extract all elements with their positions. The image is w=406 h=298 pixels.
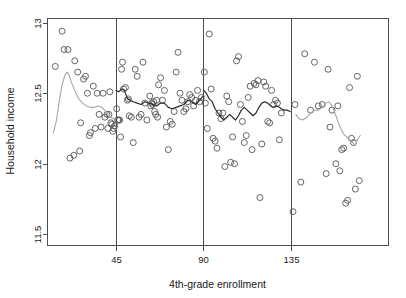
scatter-point	[120, 59, 126, 65]
smoother-curves-layer	[53, 72, 360, 145]
scatter-point	[327, 124, 333, 130]
scatter-point	[175, 49, 181, 55]
scatter-point	[214, 145, 220, 151]
scatter-point	[94, 90, 100, 96]
scatter-point	[156, 82, 162, 88]
scatter-point	[118, 134, 124, 140]
scatter-point	[195, 87, 201, 93]
scatter-point	[269, 87, 275, 93]
scatter-point	[140, 59, 146, 65]
scatter-point	[245, 94, 251, 100]
scatter-point	[201, 69, 207, 75]
scatter-point	[341, 145, 347, 151]
x-axis-title: 4th-grade enrollment	[169, 278, 266, 290]
scatter-point	[325, 66, 331, 72]
scatter-point	[72, 58, 78, 64]
scatter-point	[232, 161, 238, 167]
y-tick-label: 12.5	[32, 84, 43, 103]
smoother-curve	[296, 102, 360, 146]
scatter-point	[290, 209, 296, 215]
scatter-point	[75, 69, 81, 75]
smoother-curve	[53, 72, 115, 133]
y-tick-label: 13	[32, 18, 43, 29]
x-tick-label: 90	[198, 254, 209, 265]
scatter-point	[132, 66, 138, 72]
scatter-point	[339, 147, 345, 153]
scatter-point	[292, 102, 298, 108]
scatter-plot-figure: 459013511.51212.513 4th-grade enrollment…	[0, 0, 406, 298]
scatter-point	[230, 134, 236, 140]
scatter-point	[228, 159, 234, 165]
scatter-point	[278, 110, 284, 116]
scatter-point	[267, 120, 273, 126]
scatter-point	[239, 118, 245, 124]
scatter-point	[222, 164, 228, 170]
scatter-point	[302, 51, 308, 57]
scatter-point	[265, 118, 271, 124]
scatter-point	[134, 73, 140, 79]
scatter-point	[276, 137, 282, 143]
scatter-point	[177, 90, 183, 96]
scatter-point	[158, 75, 164, 81]
scatter-point	[128, 114, 134, 120]
vertical-reference-lines	[117, 19, 292, 246]
scatter-point	[243, 133, 249, 139]
panel-frame	[48, 19, 389, 246]
scatter-point	[78, 120, 84, 126]
scatter-point	[119, 66, 125, 72]
scatter-point	[308, 107, 314, 113]
scatter-point	[144, 117, 150, 123]
scatter-point	[226, 99, 232, 105]
scatter-point	[77, 148, 83, 154]
scatter-point	[259, 141, 265, 147]
scatter-point	[84, 90, 90, 96]
scatter-point	[337, 168, 343, 174]
scatter-point	[90, 83, 96, 89]
scatter-point	[333, 161, 339, 167]
scatter-point	[96, 111, 102, 117]
scatter-point	[173, 69, 179, 75]
scatter-point	[257, 195, 263, 201]
scatter-point	[237, 102, 243, 108]
scatter-point	[59, 28, 65, 34]
scatter-point	[163, 124, 169, 130]
axis-tick-labels: 459013511.51212.513	[32, 18, 300, 264]
scatter-point	[204, 125, 210, 131]
x-tick-label: 135	[284, 254, 300, 265]
scatter-point	[241, 140, 247, 146]
scatter-point	[352, 186, 358, 192]
scatter-point	[298, 179, 304, 185]
scatter-point	[98, 124, 104, 130]
scatter-point	[224, 93, 230, 99]
x-tick-label: 45	[111, 254, 122, 265]
scatter-point	[92, 125, 98, 131]
scatter-point	[206, 31, 212, 37]
scatter-point	[323, 171, 329, 177]
scatter-point	[179, 97, 185, 103]
scatter-point	[208, 86, 214, 92]
scatter-point	[147, 93, 153, 99]
scatter-point	[171, 109, 177, 115]
scatter-point	[347, 85, 353, 91]
scatter-point	[354, 73, 360, 79]
scatter-point	[52, 63, 58, 69]
scatter-point	[126, 113, 132, 119]
scatter-point	[220, 110, 226, 116]
scatter-point	[335, 103, 341, 109]
scatter-point	[107, 89, 113, 95]
y-axis-title: Household income	[4, 87, 16, 174]
scatter-point	[311, 59, 317, 65]
plot-canvas: 459013511.51212.513 4th-grade enrollment…	[0, 0, 406, 298]
scatter-point	[356, 178, 362, 184]
scatter-point	[100, 90, 106, 96]
y-tick-label: 11.5	[32, 226, 43, 244]
axis-tick-marks	[43, 24, 292, 251]
y-tick-label: 12	[32, 159, 43, 170]
scatter-point	[65, 47, 71, 53]
scatter-point	[165, 147, 171, 153]
scatter-point	[130, 140, 136, 146]
scatter-point	[159, 97, 165, 103]
scatter-point	[161, 87, 167, 93]
scatter-point	[249, 147, 255, 153]
scatter-points-layer	[52, 28, 362, 214]
